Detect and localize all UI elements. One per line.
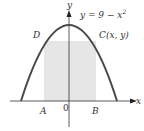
point-a-label: A [39,106,47,116]
y-axis-arrow-icon [67,10,72,17]
inscribed-rectangle [44,41,96,101]
origin-label: 0 [63,103,69,113]
x-axis-label: x [136,96,141,106]
point-c-label: C(x, y) [99,30,129,40]
equation-label: y = 9 − x2 [79,8,126,20]
parabola-diagram: y y = 9 − x2 D C(x, y) A 0 B x [0,0,144,131]
y-axis-label: y [66,0,73,10]
point-b-label: B [91,106,99,116]
point-d-label: D [32,30,40,40]
